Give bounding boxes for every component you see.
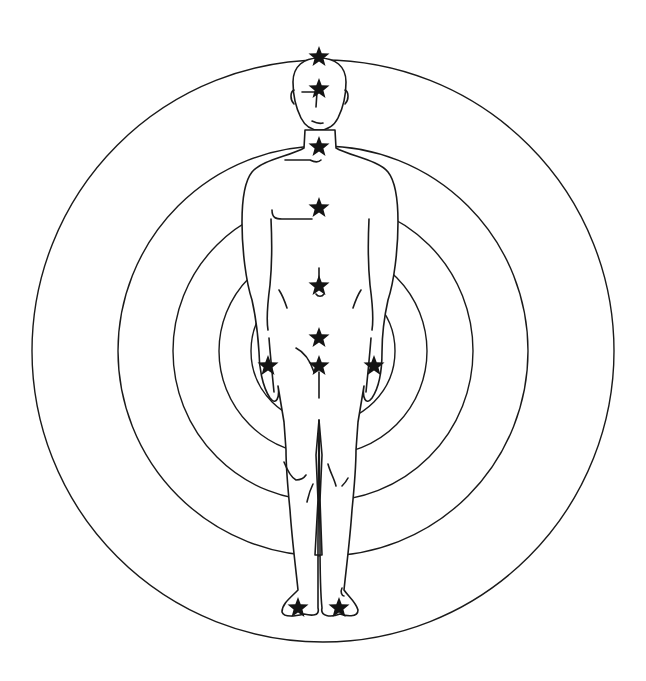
body-diagram bbox=[0, 0, 646, 681]
head-outline bbox=[293, 58, 346, 130]
diagram-canvas: Human figure with energy points and conc… bbox=[0, 0, 646, 681]
